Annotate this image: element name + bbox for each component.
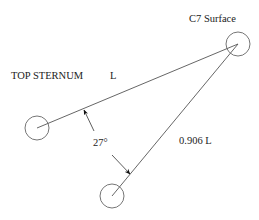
segment-top-sternum — [37, 44, 238, 128]
length-bottom-label: 0.906 L — [179, 135, 212, 146]
c7-surface-label: C7 Surface — [189, 13, 236, 24]
angle-arrow-upper — [84, 110, 94, 131]
diagram-canvas: C7 Surface TOP STERNUM L 27° 0.906 L — [0, 0, 259, 220]
top-sternum-label: TOP STERNUM — [11, 70, 84, 81]
segment-bottom — [112, 44, 238, 196]
angle-label: 27° — [93, 137, 108, 148]
angle-arrow-lower — [112, 155, 130, 174]
length-top-label: L — [110, 70, 116, 81]
